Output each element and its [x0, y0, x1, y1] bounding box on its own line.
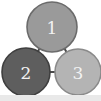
node-group: 2 3 1 [2, 2, 101, 96]
node-label-2: 2 [21, 63, 32, 83]
graph-node-1[interactable]: 1 [27, 2, 77, 52]
graph-node-2[interactable]: 2 [2, 48, 50, 96]
triangle-graph-figure: 2 3 1 [0, 0, 101, 101]
node-label-1: 1 [47, 18, 58, 38]
graph-canvas: 2 3 1 [0, 0, 101, 101]
bottom-edge-strip [0, 95, 101, 101]
node-label-3: 3 [73, 63, 84, 83]
graph-node-3[interactable]: 3 [55, 49, 101, 95]
